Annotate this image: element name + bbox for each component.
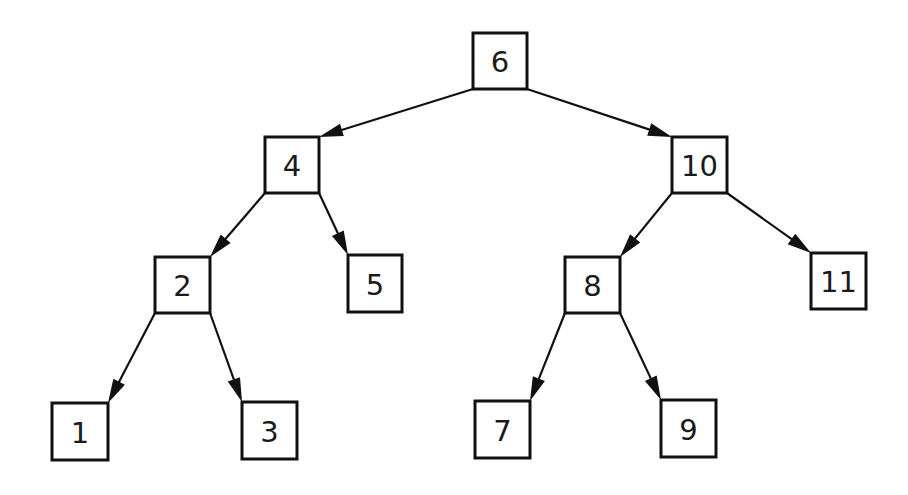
node-label: 3 bbox=[260, 415, 278, 449]
edge-line bbox=[118, 313, 155, 383]
tree-node-7: 7 bbox=[475, 401, 530, 458]
arrowhead-icon bbox=[647, 123, 672, 137]
edge-line bbox=[538, 313, 565, 381]
node-label: 1 bbox=[71, 416, 89, 450]
edge-10-to-11 bbox=[727, 193, 811, 253]
arrowhead-icon bbox=[645, 376, 661, 400]
edge-8-to-7 bbox=[530, 313, 565, 401]
node-label: 9 bbox=[679, 413, 697, 447]
edge-4-to-2 bbox=[210, 193, 265, 257]
arrowhead-icon bbox=[228, 377, 242, 402]
tree-node-10: 10 bbox=[672, 137, 727, 193]
edge-10-to-8 bbox=[620, 193, 672, 257]
arrowhead-icon bbox=[332, 231, 348, 255]
tree-node-9: 9 bbox=[661, 400, 716, 457]
edge-line bbox=[319, 193, 339, 235]
arrowhead-icon bbox=[788, 234, 811, 253]
tree-node-1: 1 bbox=[52, 403, 108, 460]
tree-node-6: 6 bbox=[473, 33, 527, 89]
node-label: 6 bbox=[491, 45, 509, 79]
edge-2-to-1 bbox=[108, 313, 155, 403]
arrowhead-icon bbox=[319, 124, 344, 137]
node-label: 7 bbox=[493, 414, 511, 448]
edge-2-to-3 bbox=[210, 313, 242, 402]
edge-line bbox=[634, 193, 672, 240]
node-label: 5 bbox=[366, 268, 384, 302]
edge-6-to-4 bbox=[319, 89, 473, 137]
edge-6-to-10 bbox=[527, 89, 672, 137]
node-label: 11 bbox=[820, 265, 857, 299]
node-label: 8 bbox=[583, 269, 601, 303]
node-label: 2 bbox=[173, 269, 191, 303]
arrowhead-icon bbox=[108, 379, 125, 403]
arrowhead-icon bbox=[530, 376, 545, 401]
tree-node-11: 11 bbox=[811, 253, 866, 309]
tree-node-4: 4 bbox=[265, 137, 319, 193]
edge-line bbox=[527, 89, 651, 130]
binary-tree-diagram: 6410258111379 bbox=[0, 0, 908, 495]
tree-node-8: 8 bbox=[565, 257, 620, 313]
nodes-group: 6410258111379 bbox=[52, 33, 866, 460]
edge-line bbox=[727, 193, 793, 240]
node-label: 4 bbox=[283, 149, 301, 183]
edge-line bbox=[210, 313, 235, 381]
tree-node-5: 5 bbox=[348, 255, 402, 312]
edge-line bbox=[620, 313, 652, 380]
node-label: 10 bbox=[681, 149, 718, 183]
edge-4-to-5 bbox=[319, 193, 348, 255]
tree-node-2: 2 bbox=[155, 257, 210, 313]
edge-line bbox=[340, 89, 473, 130]
arrowhead-icon bbox=[620, 234, 640, 257]
tree-node-3: 3 bbox=[242, 402, 297, 459]
edge-8-to-9 bbox=[620, 313, 661, 400]
edge-line bbox=[224, 193, 265, 240]
